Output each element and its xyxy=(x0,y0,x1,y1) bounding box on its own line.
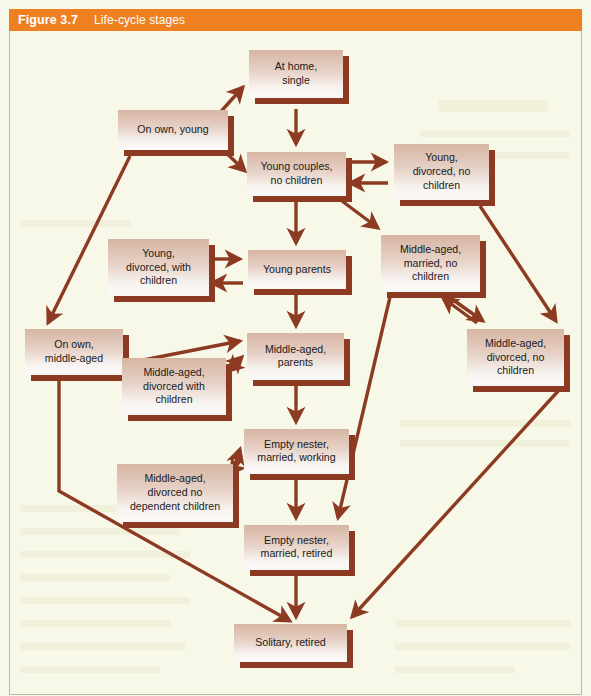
flow-arrow xyxy=(449,297,483,321)
node-label: Solitary, retired xyxy=(255,636,326,648)
node-label: Empty nester,married, retired xyxy=(261,533,333,559)
node-young-divorced-with-children: Young,divorced, withchildren xyxy=(108,239,215,302)
flowchart: At home,singleOn own, youngYoung couples… xyxy=(0,31,591,696)
node-empty-nester-married-retired: Empty nester,married, retired xyxy=(244,525,355,576)
node-solitary-retired: Solitary, retired xyxy=(234,624,353,668)
node-young-divorced-no-children: Young,divorced, nochildren xyxy=(394,144,495,206)
node-label: Empty nester,married, working xyxy=(257,437,335,463)
figure-container: Figure 3.7 Life-cycle stages At h xyxy=(0,0,591,696)
node-middle-aged-married-no-children: Middle-aged,married, nochildren xyxy=(381,235,486,298)
node-young-parents: Young parents xyxy=(248,250,352,295)
node-label: On own, young xyxy=(137,123,208,135)
flow-arrow xyxy=(342,201,378,228)
node-empty-nester-married-working: Empty nester,married, working xyxy=(244,429,355,480)
node-middle-aged-divorced-no-dependent-children: Middle-aged,divorced nodependent childre… xyxy=(117,464,239,528)
figure-title: Life-cycle stages xyxy=(94,13,185,27)
node-on-own-middle-aged: On own,middle-aged xyxy=(25,329,129,381)
flow-arrow xyxy=(338,297,390,518)
node-on-own-young: On own, young xyxy=(118,110,234,156)
diagram-canvas: At home,singleOn own, youngYoung couples… xyxy=(0,31,591,696)
node-middle-aged-divorced-with-children: Middle-aged,divorced withchildren xyxy=(122,358,232,421)
figure-header-bar: Figure 3.7 Life-cycle stages xyxy=(9,9,582,31)
node-middle-aged-parents: Middle-aged,parents xyxy=(247,333,350,386)
node-at-home-single: At home,single xyxy=(249,50,349,104)
node-middle-aged-divorced-no-children: Middle-aged,divorced, nochildren xyxy=(467,329,570,392)
node-young-couples: Young couples,no children xyxy=(247,152,352,202)
node-label: Young couples,no children xyxy=(260,160,332,186)
flow-arrow xyxy=(443,298,477,323)
flow-arrow xyxy=(352,389,560,617)
node-label: Young parents xyxy=(263,262,331,274)
flow-arrow xyxy=(480,206,556,321)
figure-number: Figure 3.7 xyxy=(18,13,78,27)
